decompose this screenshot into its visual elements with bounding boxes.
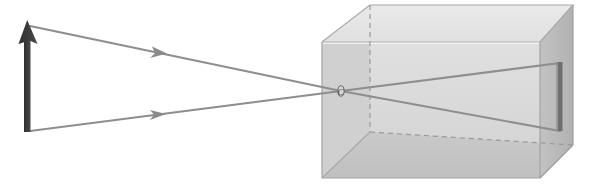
rays-object-to-pinhole [30,26,341,131]
camera-box-group [322,5,573,178]
object-arrow-group [19,20,38,132]
ray-from-object-tip [30,26,341,91]
pinhole-group: C [337,86,344,97]
pinhole-label: C [337,87,344,97]
object-arrow-head [19,20,38,44]
pinhole-camera-figure: C [0,0,594,185]
box-top-face [322,5,573,42]
figure-canvas: C [0,0,594,185]
object-arrow-shaft [24,30,31,132]
projected-image-arrow [558,62,563,131]
ray-from-object-base [30,91,341,131]
